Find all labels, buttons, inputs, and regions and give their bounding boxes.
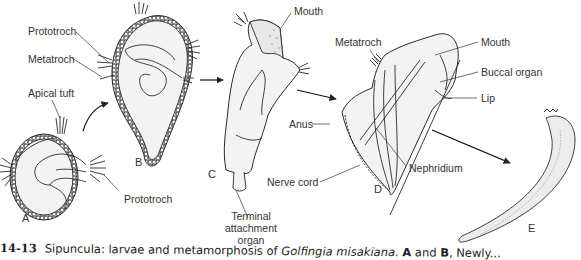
adult-worm-e [459,109,575,242]
stage-label-e: E [528,222,535,234]
caption-and: and [411,245,440,259]
label-terminal-attachment-organ: Terminal attachment organ [222,210,280,246]
label-apical-tuft: Apical tuft [28,87,74,99]
label-metatroch-b: Metatroch [28,53,75,65]
stage-label-c: C [208,168,216,180]
label-terminal-line2: attachment [222,222,280,234]
label-buccal-organ: Buccal organ [481,66,542,78]
stage-label-a: A [22,212,29,224]
larva-d [342,34,460,215]
stage-label-b: B [135,156,142,168]
label-prototroch-b: Prototroch [28,25,76,37]
label-lip: Lip [481,92,495,104]
larva-a [0,116,106,220]
caption-species: Golfingia misakiana [281,244,395,259]
label-mouth-d: Mouth [481,36,510,48]
caption-tail: , Newly... [449,246,501,260]
arrow-a-to-b [83,103,108,131]
arrow-c-to-d [297,90,336,99]
stage-label-d: D [374,183,382,195]
label-prototroch-a: Prototroch [124,193,172,205]
label-anus: Anus [289,118,313,130]
arrow-d-to-e [432,130,510,163]
label-mouth-c: Mouth [294,5,323,17]
larva-c [224,12,310,191]
larva-b [97,2,200,166]
label-nerve-cord: Nerve cord [267,176,318,188]
caption-prefix: Sipuncula: larvae and metamorphosis of [45,241,278,257]
label-nephridium: Nephridium [409,162,463,174]
label-terminal-line1: Terminal [222,210,280,222]
caption-ref-b: B [440,246,449,260]
label-metatroch-d: Metatroch [335,36,382,48]
figure-number: 14-13 [0,241,37,255]
